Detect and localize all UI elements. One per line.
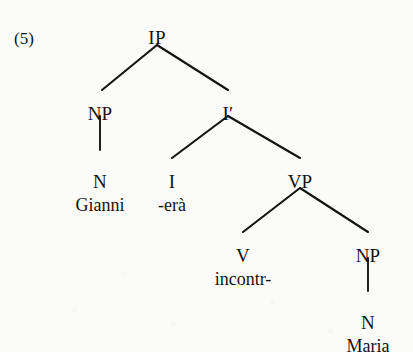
tree-node-i: I	[169, 172, 176, 191]
tree-node-np1: NP	[88, 104, 113, 123]
tree-edge-ip-to-np1	[102, 45, 157, 90]
tree-node-v: V	[236, 246, 250, 265]
tree-terminal-gianni: Gianni	[76, 196, 125, 214]
tree-edge-ibar-to-vp	[228, 116, 300, 158]
tree-terminal-maria: Maria	[347, 337, 390, 352]
tree-terminal-era: -erà	[158, 196, 186, 214]
tree-edge-ip-to-ibar	[157, 45, 228, 90]
tree-terminal-incontr: incontr-	[215, 270, 272, 288]
syntax-tree-figure: (5) IPNPI′NIVPVNPN Gianni-eràincontr-Mar…	[0, 0, 413, 352]
example-number-label: (5)	[14, 30, 34, 47]
tree-edge-vp-to-v	[243, 188, 300, 232]
tree-node-ibar: I′	[223, 104, 234, 123]
tree-branch-lines	[0, 0, 413, 352]
tree-edge-ibar-to-i	[172, 116, 228, 158]
tree-node-vp: VP	[288, 172, 313, 191]
tree-node-ip: IP	[148, 28, 165, 47]
tree-edge-vp-to-np2	[300, 188, 368, 232]
tree-node-n2: N	[361, 313, 375, 332]
tree-node-n1: N	[93, 172, 107, 191]
tree-node-np2: NP	[356, 246, 381, 265]
